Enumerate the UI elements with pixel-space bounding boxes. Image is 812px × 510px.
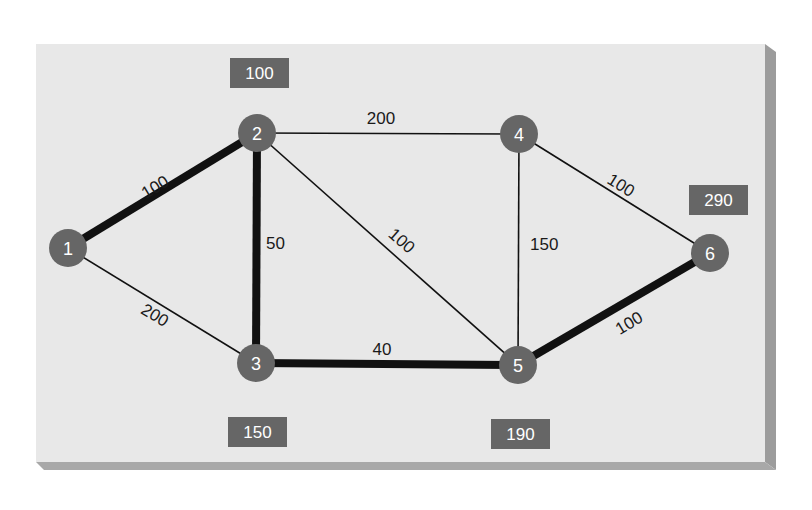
distance-box-node-3: 150	[228, 417, 287, 447]
node-label: 1	[63, 239, 73, 259]
node-label: 3	[251, 354, 261, 374]
edge-4-5	[518, 134, 519, 365]
node-label: 4	[514, 125, 524, 145]
distance-value: 150	[243, 423, 271, 442]
distance-box-node-5: 190	[491, 419, 550, 449]
node-3: 3	[237, 344, 275, 382]
distance-box-node-6: 290	[689, 185, 748, 215]
edge-weight-4-5: 150	[530, 235, 558, 254]
node-label: 5	[513, 356, 523, 376]
edge-3-5	[256, 363, 518, 365]
panel-shadow-bottom	[36, 462, 776, 470]
distance-value: 190	[506, 425, 534, 444]
distance-value: 290	[704, 191, 732, 210]
node-4: 4	[500, 115, 538, 153]
edge-weight-3-5: 40	[373, 340, 392, 359]
node-label: 6	[705, 244, 715, 264]
edge-weight-2-4: 200	[367, 109, 395, 128]
panel	[36, 44, 765, 462]
node-6: 6	[691, 234, 729, 272]
edge-weight-2-3: 50	[266, 234, 285, 253]
edge-2-4	[257, 133, 519, 134]
panel-shadow-right	[765, 44, 776, 470]
edge-2-3	[256, 133, 257, 363]
distance-value: 100	[245, 64, 273, 83]
node-1: 1	[49, 229, 87, 267]
network-diagram: 100 200 50 200 100 40 150 100 100 1 2 3 …	[0, 0, 812, 510]
node-2: 2	[238, 114, 276, 152]
node-label: 2	[252, 124, 262, 144]
distance-box-node-2: 100	[230, 58, 289, 88]
node-5: 5	[499, 346, 537, 384]
